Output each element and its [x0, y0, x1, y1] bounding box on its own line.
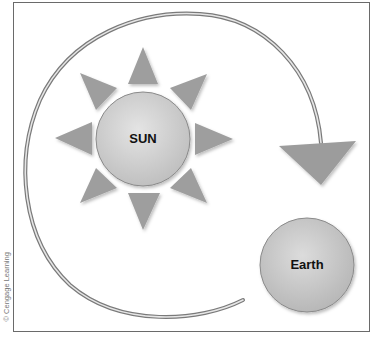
earth-label: Earth [277, 257, 337, 272]
copyright-credit: © Cengage Learning [2, 262, 11, 322]
sun-ray-right-icon [195, 123, 233, 155]
sun-label: SUN [113, 131, 173, 146]
sun-ray-bottom-icon [128, 193, 160, 230]
orbit-diagram [0, 0, 379, 341]
sun-ray-left-icon [55, 122, 92, 155]
orbit-arrowhead-icon [279, 141, 356, 185]
sun-ray-top-icon [128, 47, 158, 84]
